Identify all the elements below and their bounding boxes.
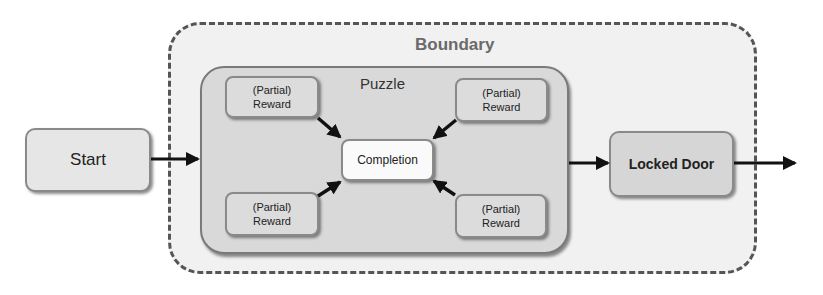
arrow-reward-tr-to-completion: [434, 120, 456, 138]
arrows-layer: [0, 0, 823, 295]
arrow-reward-br-to-completion: [434, 181, 455, 195]
arrow-reward-tl-to-completion: [318, 118, 340, 137]
arrow-reward-bl-to-completion: [318, 182, 340, 196]
